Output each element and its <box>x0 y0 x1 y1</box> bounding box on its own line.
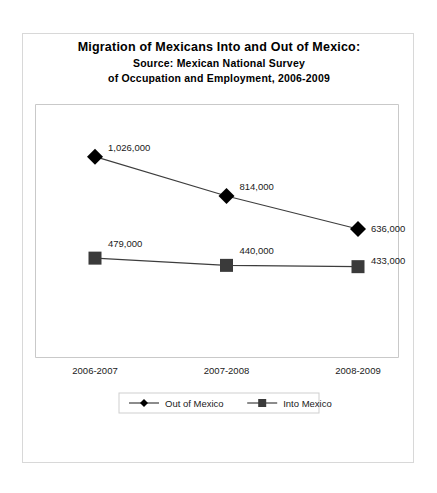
data-point-label: 479,000 <box>108 238 142 249</box>
legend-label-1[interactable]: Out of Mexico <box>165 398 224 409</box>
data-point-label: 636,000 <box>371 223 405 234</box>
data-point-marker[interactable] <box>220 259 233 272</box>
category-label-1: 2006-2007 <box>72 365 117 376</box>
data-point-label: 814,000 <box>240 181 274 192</box>
chart-legend[interactable]: Out of MexicoInto Mexico <box>119 393 332 413</box>
data-point-marker[interactable] <box>89 252 102 265</box>
data-point-marker[interactable] <box>352 260 365 273</box>
chart-frame: Migration of Mexicans Into and Out of Me… <box>22 33 414 463</box>
legend-label-2[interactable]: Into Mexico <box>283 398 332 409</box>
plot-background <box>35 104 398 357</box>
data-point-label: 1,026,000 <box>108 142 150 153</box>
category-axis-labels: 2006-20072007-20082008-2009 <box>72 365 380 376</box>
legend-square-icon <box>258 399 266 407</box>
data-point-label: 433,000 <box>371 255 405 266</box>
data-point-label: 440,000 <box>240 245 274 256</box>
chart-plot-area: 1,026,000814,000636,000479,000440,000433… <box>23 34 415 464</box>
category-label-2: 2007-2008 <box>204 365 249 376</box>
category-label-3: 2008-2009 <box>335 365 380 376</box>
